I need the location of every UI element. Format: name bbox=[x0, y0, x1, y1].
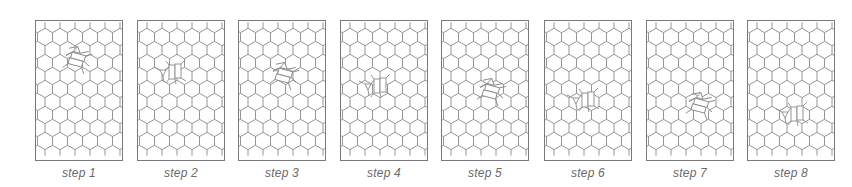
hex-lattice-lines bbox=[647, 22, 734, 155]
label-step-6: step 6 bbox=[544, 166, 632, 180]
panel-step-6 bbox=[544, 20, 632, 161]
hex-lattice-step-5 bbox=[442, 21, 529, 161]
hex-lattice-lines bbox=[748, 22, 835, 155]
hex-lattice-lines bbox=[545, 22, 632, 155]
label-step-5: step 5 bbox=[441, 166, 529, 180]
hex-lattice-lines bbox=[138, 22, 225, 155]
label-step-2: step 2 bbox=[137, 166, 225, 180]
lattice-defect bbox=[270, 60, 301, 91]
hex-lattice-step-7 bbox=[647, 21, 734, 161]
hex-lattice-step-1 bbox=[36, 21, 123, 161]
hex-lattice-step-2 bbox=[138, 21, 225, 161]
panel-step-3 bbox=[238, 20, 326, 161]
lattice-defect bbox=[154, 60, 186, 84]
hex-lattice-step-3 bbox=[239, 21, 326, 161]
hex-lattice-lines bbox=[36, 22, 123, 155]
label-step-1: step 1 bbox=[35, 166, 123, 180]
panel-step-4 bbox=[340, 20, 428, 161]
label-step-7: step 7 bbox=[646, 166, 734, 180]
hex-lattice-step-6 bbox=[545, 21, 632, 161]
hex-lattice-lines bbox=[239, 22, 326, 155]
hex-lattice-step-4 bbox=[341, 21, 428, 161]
panel-step-2 bbox=[137, 20, 225, 161]
label-step-3: step 3 bbox=[238, 166, 326, 180]
panel-step-8 bbox=[747, 20, 835, 161]
label-step-8: step 8 bbox=[747, 166, 835, 180]
label-step-4: step 4 bbox=[340, 166, 428, 180]
panel-step-7 bbox=[646, 20, 734, 161]
hex-lattice-step-8 bbox=[748, 21, 835, 161]
panel-step-5 bbox=[441, 20, 529, 161]
panel-step-1 bbox=[35, 20, 123, 161]
